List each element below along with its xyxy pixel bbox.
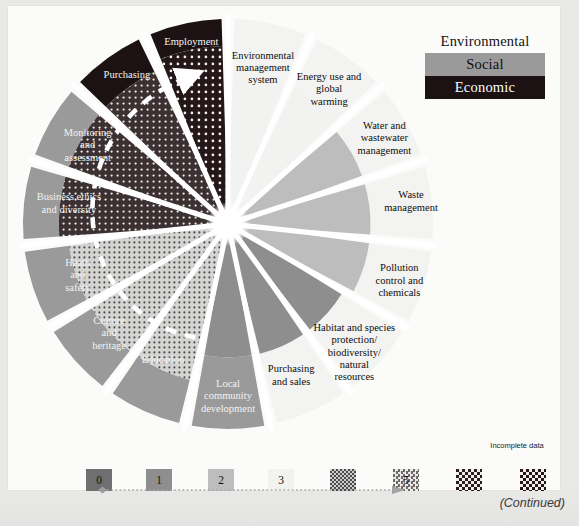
key-item-economic: Economic [425, 76, 545, 99]
sector-label-employment: Employment [149, 36, 233, 48]
wheel-hub [206, 202, 250, 246]
figure-card: Environmental management systemEnergy us… [8, 6, 560, 490]
sector-label-purchasing: Purchasing [90, 69, 164, 81]
sector-label-waste-management: Waste management [374, 189, 448, 214]
scale-progression-arrow [94, 485, 414, 495]
sector-label-culture-and-heritage: Culture and heritage [80, 315, 138, 352]
sector-label-energy-use-and-global-warming: Energy use and global warming [283, 71, 375, 108]
incomplete-data-label: Incomplete data [486, 441, 548, 450]
sector-label-heath-and-safety: Heath and safety [52, 257, 104, 294]
continued-note: (Continued) [500, 496, 565, 510]
sector-label-education: Education [132, 354, 194, 366]
sector-label-monitoring-and-assessment: Monitoring and assessment [50, 127, 126, 164]
key-item-environmental: Environmental [425, 30, 545, 53]
scale-swatch-6[interactable]: 6 [456, 469, 482, 491]
key-item-social: Social [425, 53, 545, 76]
sector-label-water-and-wastewater-management: Water and wastewater management [343, 120, 425, 157]
sector-label-business-ethics-and-diversity: Business ethics and diversity [28, 191, 110, 216]
sector-label-local-community-development: Local community development [192, 378, 264, 415]
scale-swatch-incomplete[interactable]: Incomplete data [520, 469, 546, 491]
sector-label-purchasing-and-sales: Purchasing and sales [255, 363, 327, 388]
dimension-key: Environmental Social Economic [425, 30, 545, 99]
figure-page: Environmental management systemEnergy us… [0, 0, 579, 526]
maturity-scale-legend: 0123456Incomplete data Incomplete data [68, 455, 508, 501]
sector-label-pollution-control-and-chemicals: Pollution control and chemicals [360, 262, 438, 299]
